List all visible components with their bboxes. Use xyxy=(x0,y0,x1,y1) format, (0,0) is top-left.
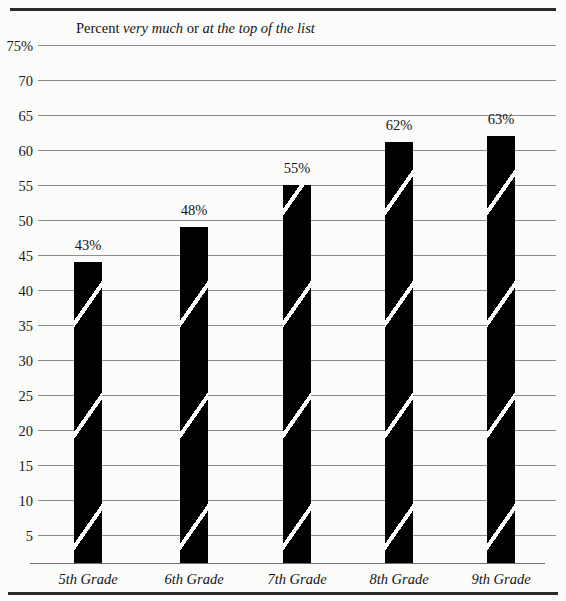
y-tick-label-20: 20 xyxy=(0,424,33,439)
bar-value-5th-grade: 43% xyxy=(58,238,118,253)
y-tick-label-60: 60 xyxy=(0,144,33,159)
y-tick-label-75: 75% xyxy=(0,39,33,54)
bar-8th-grade xyxy=(385,142,413,563)
chart-title-part-1: Percent xyxy=(76,20,123,36)
gridline-75 xyxy=(38,45,556,46)
plot-area: 75% 70 65 60 55 50 45 40 35 30 25 20 15 … xyxy=(0,0,566,601)
chart-title-part-2: very much xyxy=(123,20,183,36)
chart-title-part-3: or xyxy=(183,20,202,36)
bar-value-8th-grade: 62% xyxy=(369,118,429,133)
y-tick-label-50: 50 xyxy=(0,214,33,229)
bottom-border-rule xyxy=(8,592,558,595)
bar-6th-grade xyxy=(180,227,208,563)
y-tick-label-70: 70 xyxy=(0,74,33,89)
category-label-7th-grade: 7th Grade xyxy=(242,572,352,587)
y-tick-label-10: 10 xyxy=(0,494,33,509)
category-label-5th-grade: 5th Grade xyxy=(33,572,143,587)
chart-title: Percent very much or at the top of the l… xyxy=(76,20,315,37)
y-tick-label-35: 35 xyxy=(0,319,33,334)
gridline-60 xyxy=(38,150,556,151)
bar-value-6th-grade: 48% xyxy=(164,203,224,218)
y-tick-label-65: 65 xyxy=(0,109,33,124)
gridline-70 xyxy=(38,80,556,81)
y-tick-label-5: 5 xyxy=(0,529,33,544)
y-tick-label-25: 25 xyxy=(0,389,33,404)
bar-value-9th-grade: 63% xyxy=(471,112,531,127)
y-tick-label-45: 45 xyxy=(0,249,33,264)
chart-title-part-4: at the top of the list xyxy=(202,20,314,36)
y-tick-label-40: 40 xyxy=(0,284,33,299)
bar-9th-grade xyxy=(487,136,515,563)
y-tick-label-15: 15 xyxy=(0,459,33,474)
bar-value-7th-grade: 55% xyxy=(267,161,327,176)
bar-5th-grade xyxy=(74,262,102,563)
chart-container: 75% 70 65 60 55 50 45 40 35 30 25 20 15 … xyxy=(0,0,566,601)
y-tick-label-55: 55 xyxy=(0,179,33,194)
category-label-8th-grade: 8th Grade xyxy=(344,572,454,587)
bar-7th-grade xyxy=(283,185,311,563)
axis-baseline xyxy=(30,563,545,564)
category-label-6th-grade: 6th Grade xyxy=(139,572,249,587)
y-tick-label-30: 30 xyxy=(0,354,33,369)
category-label-9th-grade: 9th Grade xyxy=(446,572,556,587)
